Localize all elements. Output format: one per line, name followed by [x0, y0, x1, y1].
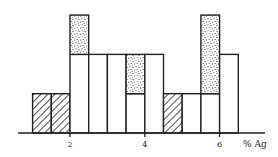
bar-open-8-0 — [182, 94, 201, 133]
bar-open-3-0 — [89, 54, 108, 133]
bar-hatched-1-0 — [51, 94, 70, 133]
bar-stippled-5-1 — [126, 54, 145, 93]
bar-open-2-0 — [70, 54, 89, 133]
bar-open-9-0 — [201, 94, 220, 133]
bar-open-6-0 — [145, 54, 164, 133]
bar-stippled-2-1 — [70, 15, 89, 54]
bar-hatched-0-0 — [33, 94, 52, 133]
bars-group — [33, 15, 239, 133]
bar-open-4-0 — [107, 54, 126, 133]
bar-open-5-0 — [126, 94, 145, 133]
bar-stippled-9-1 — [201, 15, 220, 94]
bar-hatched-7-0 — [164, 94, 183, 133]
x-tick-label-0: 2 — [67, 140, 72, 149]
histogram-chart: 246 % Ag — [0, 0, 278, 157]
x-tick-label-1: 4 — [142, 140, 147, 149]
bar-open-10-0 — [220, 54, 239, 133]
x-axis-title: % Ag — [243, 139, 267, 149]
x-tick-label-2: 6 — [217, 140, 222, 149]
x-ticks: 246 — [67, 133, 222, 149]
